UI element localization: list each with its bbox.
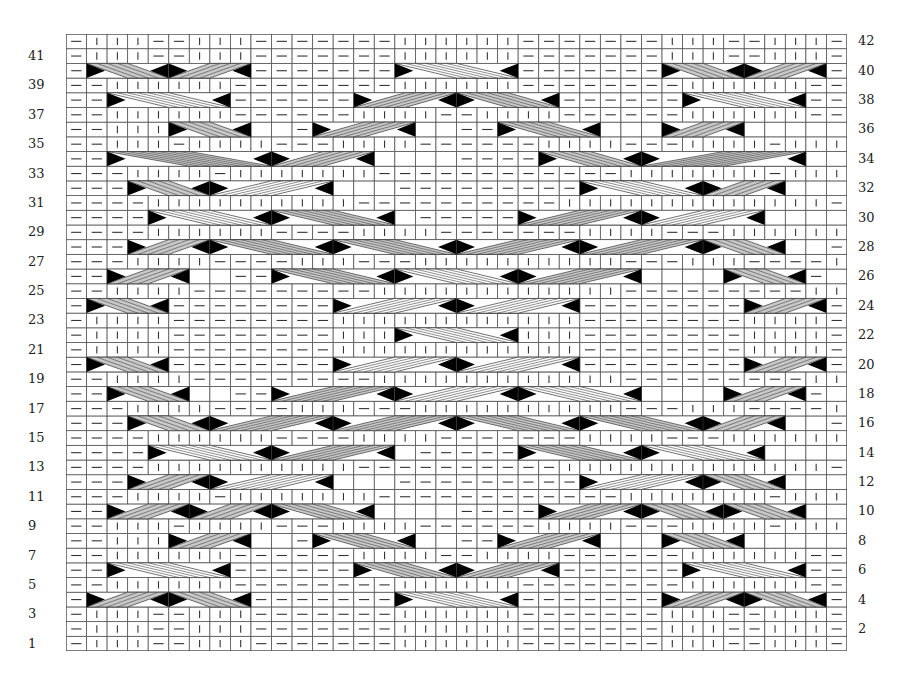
stitch-cell <box>600 122 621 137</box>
row-label: 26 <box>858 269 888 283</box>
stitch-cell <box>826 210 847 225</box>
stitch-cell <box>826 475 847 490</box>
row-label: 23 <box>28 313 56 327</box>
row-label: 21 <box>28 343 56 357</box>
row-label: 41 <box>28 49 56 63</box>
stitch-cell <box>785 533 806 548</box>
stitch-cell <box>333 181 354 196</box>
stitch-cell <box>641 387 662 402</box>
stitch-cell <box>785 122 806 137</box>
stitch-cell <box>785 445 806 460</box>
stitch-cell <box>703 387 724 402</box>
stitch-cell <box>436 533 457 548</box>
stitch-cell <box>765 210 786 225</box>
stitch-cell <box>415 533 436 548</box>
stitch-cell <box>826 533 847 548</box>
stitch-cell <box>683 269 704 284</box>
stitch-cell <box>272 533 293 548</box>
row-label: 24 <box>858 299 888 313</box>
row-label: 10 <box>858 504 888 518</box>
row-label: 17 <box>28 402 56 416</box>
row-label: 12 <box>858 475 888 489</box>
row-label: 16 <box>858 416 888 430</box>
stitch-cell <box>744 122 765 137</box>
stitch-cell <box>662 387 683 402</box>
stitch-cell <box>806 504 827 519</box>
stitch-cell <box>600 533 621 548</box>
stitch-cell <box>806 416 827 431</box>
stitch-cell <box>210 387 231 402</box>
stitch-cell <box>436 152 457 167</box>
row-label: 38 <box>858 93 888 107</box>
stitch-cell <box>210 269 231 284</box>
stitch-cell <box>436 122 457 137</box>
stitch-cell <box>806 475 827 490</box>
stitch-cell <box>395 152 416 167</box>
stitch-cell <box>395 445 416 460</box>
stitch-cell <box>785 416 806 431</box>
stitch-cell <box>826 445 847 460</box>
row-label: 15 <box>28 431 56 445</box>
row-label: 37 <box>28 108 56 122</box>
row-label: 30 <box>858 211 888 225</box>
row-label: 27 <box>28 255 56 269</box>
row-label: 3 <box>28 607 56 621</box>
stitch-cell <box>251 122 272 137</box>
stitch-cell <box>765 445 786 460</box>
stitch-cell <box>765 533 786 548</box>
stitch-cell <box>744 533 765 548</box>
stitch-cell <box>806 210 827 225</box>
stitch-cell <box>395 210 416 225</box>
stitch-cell <box>641 269 662 284</box>
row-label: 42 <box>858 34 888 48</box>
stitch-cell <box>395 504 416 519</box>
stitch-cell <box>806 122 827 137</box>
stitch-cell <box>826 122 847 137</box>
stitch-cell <box>826 504 847 519</box>
stitch-cell <box>621 122 642 137</box>
stitch-cell <box>785 240 806 255</box>
stitch-cell <box>374 504 395 519</box>
stitch-cell <box>806 533 827 548</box>
row-label: 19 <box>28 372 56 386</box>
row-label: 11 <box>28 490 56 504</box>
row-label: 13 <box>28 460 56 474</box>
row-label: 28 <box>858 240 888 254</box>
stitch-cell <box>415 122 436 137</box>
stitch-cell <box>374 152 395 167</box>
stitch-cell <box>189 387 210 402</box>
row-label: 2 <box>858 622 888 636</box>
row-label: 9 <box>28 519 56 533</box>
stitch-cell <box>189 269 210 284</box>
stitch-cell <box>703 269 724 284</box>
stitch-cell <box>765 122 786 137</box>
stitch-cell <box>354 181 375 196</box>
stitch-cell <box>785 181 806 196</box>
row-label: 18 <box>858 387 888 401</box>
row-label: 8 <box>858 534 888 548</box>
row-label: 6 <box>858 563 888 577</box>
stitch-cell <box>806 181 827 196</box>
stitch-cell <box>683 387 704 402</box>
row-label: 14 <box>858 446 888 460</box>
stitch-cell <box>785 210 806 225</box>
stitch-cell <box>415 504 436 519</box>
row-label: 36 <box>858 122 888 136</box>
stitch-cell <box>251 533 272 548</box>
stitch-cell <box>621 533 642 548</box>
stitch-cell <box>826 269 847 284</box>
row-label: 31 <box>28 196 56 210</box>
stitch-cell <box>333 475 354 490</box>
row-label: 35 <box>28 137 56 151</box>
stitch-cell <box>826 181 847 196</box>
stitch-cell <box>374 181 395 196</box>
stitch-cell <box>641 533 662 548</box>
stitch-cell <box>374 475 395 490</box>
stitch-cell <box>354 475 375 490</box>
stitch-cell <box>826 387 847 402</box>
row-label: 29 <box>28 225 56 239</box>
row-label: 4 <box>858 593 888 607</box>
stitch-cell <box>415 152 436 167</box>
row-label: 5 <box>28 578 56 592</box>
stitch-cell <box>662 269 683 284</box>
